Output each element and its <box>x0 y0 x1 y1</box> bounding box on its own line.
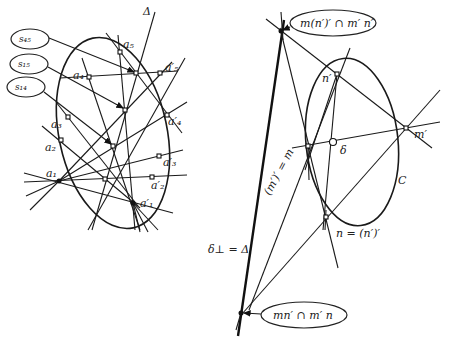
right-figure: C n′ m′ δ n = (n′)′ δ⊥ = Δ <box>208 10 440 336</box>
callout-bottom: mn′ ∩ m′ n <box>244 302 347 328</box>
point-s45 <box>134 71 138 75</box>
point-delta <box>330 139 337 146</box>
point-nprime <box>335 72 339 76</box>
callout-top: m(n′)′ ∩ m′ n′ <box>283 10 376 36</box>
delta-axis-label: Δ <box>142 5 151 18</box>
point-bottom-intersection <box>239 311 244 316</box>
svg-text:a₃: a₃ <box>51 118 62 131</box>
point-mprime <box>404 126 408 130</box>
conic-c-label: C <box>398 174 407 187</box>
svg-text:a′₂: a′₂ <box>151 179 164 192</box>
svg-text:n′: n′ <box>322 72 332 85</box>
svg-text:m′: m′ <box>414 128 427 141</box>
svg-text:n = (n′)′: n = (n′)′ <box>336 227 380 240</box>
svg-text:δ: δ <box>340 144 347 157</box>
svg-text:m(n′)′ ∩ m′ n′: m(n′)′ ∩ m′ n′ <box>300 17 374 30</box>
fan-a1-1 <box>26 181 59 196</box>
svg-text:mn′ ∩ m′ n: mn′ ∩ m′ n <box>273 309 333 322</box>
svg-text:δ⊥ = Δ: δ⊥ = Δ <box>208 243 249 256</box>
point-a5p <box>158 71 162 75</box>
point-m <box>306 144 310 148</box>
point-inner <box>103 177 107 181</box>
svg-text:a₄: a₄ <box>73 69 84 82</box>
svg-text:a′₅: a′₅ <box>165 61 179 74</box>
svg-text:a₂: a₂ <box>45 141 56 154</box>
line-n-stub <box>325 210 326 230</box>
point-s14 <box>111 144 115 148</box>
svg-text:s₄₅: s₄₅ <box>19 34 31 44</box>
svg-text:a′₁: a′₁ <box>140 197 153 210</box>
projective-geometry-diagram: Δ s₄₅ s₁₅ <box>0 0 449 344</box>
point-a4 <box>87 75 91 79</box>
line-m-n <box>308 146 338 268</box>
point-a5 <box>118 50 122 54</box>
left-conic <box>40 27 186 239</box>
point-a3 <box>66 115 70 119</box>
point-a1 <box>57 179 62 184</box>
point-top-intersection <box>279 29 284 34</box>
svg-text:s₁₅: s₁₅ <box>18 59 30 69</box>
point-a3p <box>157 154 161 158</box>
point-s15 <box>123 108 127 112</box>
svg-text:a₅: a₅ <box>123 38 135 51</box>
svg-text:a′₄: a′₄ <box>168 115 181 128</box>
point-a1p <box>131 201 136 206</box>
point-a2 <box>59 138 63 142</box>
line-nprime-up <box>249 48 350 310</box>
svg-text:s₁₄: s₁₄ <box>15 82 27 92</box>
line-nprime-n <box>323 74 337 230</box>
left-figure: Δ s₄₅ s₁₅ <box>7 5 187 239</box>
fan-a1-2 <box>30 181 59 210</box>
point-n <box>324 215 328 219</box>
line-mprime-up <box>242 90 440 314</box>
svg-text:(m′)′ = m: (m′)′ = m <box>261 147 296 198</box>
svg-text:a′₃: a′₃ <box>163 156 176 169</box>
svg-text:a₁: a₁ <box>46 167 57 180</box>
line-top-m <box>280 28 310 150</box>
